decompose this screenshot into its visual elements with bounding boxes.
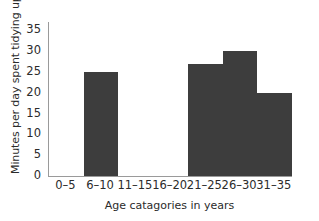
x-axis-tick-labels: 0–56–1011–1516–2021–2526–3031–35	[48, 179, 291, 197]
x-tick-label: 16–20	[152, 179, 187, 192]
y-tick-label: 20	[13, 87, 41, 99]
bar-chart: Minutes per day spent tidying up 0510152…	[0, 0, 319, 221]
bar	[84, 72, 119, 176]
bar-series	[49, 22, 292, 176]
x-tick-label: 6–10	[83, 179, 118, 192]
y-tick-label: 10	[13, 128, 41, 140]
plot-area	[48, 22, 292, 177]
x-tick-label: 0–5	[48, 179, 83, 192]
y-tick-label: 15	[13, 108, 41, 120]
bar	[188, 64, 223, 176]
y-axis-tick-labels: 05101520253035	[0, 0, 45, 221]
y-tick-label: 5	[13, 149, 41, 161]
x-tick-label: 31–35	[256, 179, 291, 192]
bar	[223, 51, 258, 176]
y-tick-label: 25	[13, 66, 41, 78]
y-tick-label: 30	[13, 45, 41, 57]
x-tick-label: 26–30	[222, 179, 257, 192]
x-tick-label: 11–15	[117, 179, 152, 192]
y-tick-label: 35	[13, 24, 41, 36]
y-tick-label: 0	[13, 170, 41, 182]
x-tick-label: 21–25	[187, 179, 222, 192]
bar	[257, 93, 292, 176]
x-axis-title: Age catagories in years	[48, 200, 291, 212]
